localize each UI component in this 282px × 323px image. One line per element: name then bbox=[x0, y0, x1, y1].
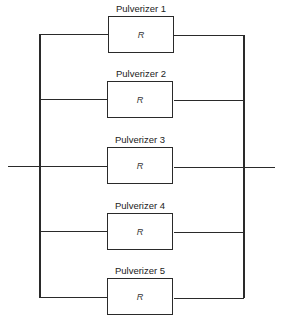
reliability-symbol: R bbox=[137, 95, 144, 105]
branch-1-left bbox=[39, 34, 108, 35]
input-line bbox=[8, 166, 108, 167]
branch-4-left bbox=[39, 231, 108, 232]
output-line bbox=[174, 167, 275, 168]
pulverizer-block-4: R bbox=[107, 213, 173, 250]
reliability-symbol: R bbox=[137, 227, 144, 237]
block-label-2: Pulverizer 2 bbox=[91, 68, 191, 79]
pulverizer-block-3: R bbox=[107, 147, 173, 184]
branch-5-right bbox=[174, 298, 244, 299]
block-label-5: Pulverizer 5 bbox=[90, 265, 190, 276]
branch-2-left bbox=[39, 99, 108, 100]
block-label-4: Pulverizer 4 bbox=[90, 200, 190, 211]
reliability-symbol: R bbox=[138, 30, 145, 40]
branch-5-left bbox=[39, 297, 108, 298]
pulverizer-block-5: R bbox=[107, 278, 173, 315]
reliability-symbol: R bbox=[137, 161, 144, 171]
branch-1-right bbox=[174, 35, 244, 36]
pulverizer-block-1: R bbox=[108, 16, 174, 53]
branch-4-right bbox=[174, 232, 244, 233]
block-label-1: Pulverizer 1 bbox=[91, 3, 191, 14]
block-label-3: Pulverizer 3 bbox=[90, 134, 190, 145]
reliability-symbol: R bbox=[137, 292, 144, 302]
branch-2-right bbox=[174, 100, 244, 101]
pulverizer-block-2: R bbox=[107, 81, 173, 118]
